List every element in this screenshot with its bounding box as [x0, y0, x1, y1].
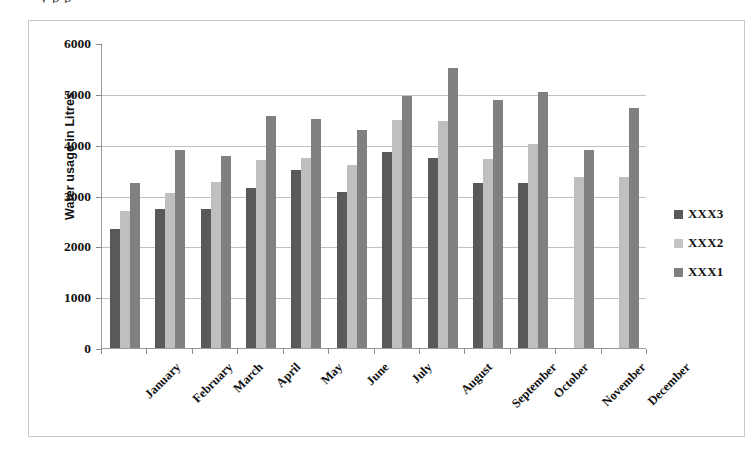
y-tick-label: 1000	[64, 290, 91, 306]
bar-group	[465, 44, 510, 348]
bar[interactable]	[130, 183, 140, 348]
x-axis-label: May	[318, 360, 346, 388]
x-axis-label: December	[645, 360, 694, 409]
bar-group	[284, 44, 329, 348]
bar[interactable]	[402, 96, 412, 348]
bar[interactable]	[165, 193, 175, 348]
legend-swatch-icon	[674, 210, 683, 219]
bar[interactable]	[619, 177, 629, 348]
y-tick-label: 6000	[64, 36, 91, 52]
x-axis-label: March	[230, 360, 266, 396]
bar[interactable]	[155, 209, 165, 348]
bar[interactable]	[493, 100, 503, 348]
bar-group	[556, 44, 601, 348]
bar[interactable]	[221, 156, 231, 348]
legend-item[interactable]: XXX1	[674, 264, 723, 280]
y-tick-label: 3000	[64, 189, 91, 205]
bar[interactable]	[574, 177, 584, 348]
bar[interactable]	[337, 192, 347, 348]
bar[interactable]	[428, 158, 438, 348]
bar-group	[329, 44, 374, 348]
chart-frame: Water usage in Litres 600050004000300020…	[28, 20, 745, 437]
bar[interactable]	[584, 150, 594, 348]
x-axis-label: April	[274, 360, 305, 391]
bar[interactable]	[473, 183, 483, 348]
bar-group	[147, 44, 192, 348]
bar[interactable]	[110, 229, 120, 348]
y-tick-label: 4000	[64, 138, 91, 154]
y-tick-label: 0	[84, 341, 91, 357]
bar-group	[375, 44, 420, 348]
bar[interactable]	[629, 108, 639, 348]
bar[interactable]	[438, 121, 448, 348]
bar[interactable]	[246, 188, 256, 348]
y-tick-label: 5000	[64, 87, 91, 103]
bar[interactable]	[538, 92, 548, 348]
y-axis-title: Water usage in Litres	[63, 51, 77, 261]
bar[interactable]	[266, 116, 276, 348]
bar[interactable]	[392, 120, 402, 348]
cutoff-header-text: y p p	[40, 0, 660, 3]
bar[interactable]	[175, 150, 185, 348]
x-axis-label: February	[189, 360, 235, 406]
y-tick-label: 2000	[64, 239, 91, 255]
bar[interactable]	[483, 159, 493, 348]
bar-series-container	[102, 44, 646, 348]
x-axis-label: November	[600, 360, 650, 410]
legend-swatch-icon	[674, 239, 683, 248]
bar-group	[420, 44, 465, 348]
bar[interactable]	[347, 165, 357, 348]
bar-group	[602, 44, 647, 348]
bar[interactable]	[201, 209, 211, 348]
bar[interactable]	[256, 160, 266, 348]
x-axis-label: August	[458, 360, 496, 398]
legend-label: XXX3	[688, 206, 723, 222]
x-axis-label: July	[408, 360, 435, 387]
bar-group	[238, 44, 283, 348]
chart-legend: XXX3XXX2XXX1	[674, 206, 723, 280]
bar-group	[511, 44, 556, 348]
bar[interactable]	[120, 211, 130, 348]
bar[interactable]	[448, 68, 458, 348]
bar-group	[193, 44, 238, 348]
legend-item[interactable]: XXX2	[674, 235, 723, 251]
plot-area: 6000500040003000200010000	[101, 44, 646, 349]
legend-label: XXX2	[688, 235, 723, 251]
bar[interactable]	[211, 182, 221, 348]
legend-label: XXX1	[688, 264, 723, 280]
x-axis-label: September	[509, 360, 560, 411]
legend-item[interactable]: XXX3	[674, 206, 723, 222]
bar[interactable]	[382, 152, 392, 348]
bar[interactable]	[518, 183, 528, 348]
bar[interactable]	[357, 130, 367, 348]
x-tick-mark	[646, 349, 647, 354]
bar[interactable]	[528, 144, 538, 348]
bar[interactable]	[311, 119, 321, 348]
x-axis-labels: JanuaryFebruaryMarchAprilMayJuneJulyAugu…	[101, 352, 646, 432]
bar-group	[102, 44, 147, 348]
x-axis-label: June	[364, 360, 393, 389]
bar[interactable]	[301, 158, 311, 348]
x-axis-label: January	[142, 360, 184, 402]
bar[interactable]	[291, 170, 301, 348]
legend-swatch-icon	[674, 268, 683, 277]
